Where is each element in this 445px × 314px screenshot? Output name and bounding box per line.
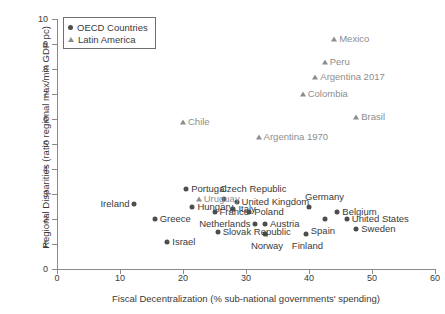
legend-circle-marker-icon (68, 25, 73, 30)
data-point-circle (344, 217, 349, 222)
y-axis-tick (52, 144, 57, 145)
x-axis-tick-label: 60 (420, 274, 445, 283)
data-point-label: Norway (251, 241, 283, 251)
legend-item-label: OECD Countries (77, 22, 148, 33)
data-point-circle (247, 209, 252, 214)
data-point-circle (190, 204, 195, 209)
data-point-circle (322, 217, 327, 222)
data-point-label: Chile (188, 117, 210, 127)
data-point-label: Peru (330, 57, 350, 67)
y-axis-tick (52, 244, 57, 245)
y-axis-line (57, 19, 58, 270)
data-point-triangle (180, 119, 186, 124)
x-axis-tick-label: 10 (105, 274, 135, 283)
data-point-label: Colombia (308, 89, 348, 99)
chart-legend: OECD Countries Latin America (63, 17, 156, 49)
data-point-triangle (312, 74, 318, 79)
data-point-circle (132, 202, 137, 207)
data-point-label: Argentina 1970 (264, 132, 328, 142)
x-axis-tick-label: 20 (168, 274, 198, 283)
x-axis-tick-label: 50 (357, 274, 387, 283)
data-point-circle (184, 187, 189, 192)
data-point-triangle (353, 114, 359, 119)
y-axis-tick (52, 169, 57, 170)
x-axis-tick-label: 0 (42, 274, 72, 283)
y-axis-tick (52, 94, 57, 95)
data-point-triangle (300, 92, 306, 97)
x-axis-tick-label: 30 (231, 274, 261, 283)
data-point-circle (303, 232, 308, 237)
legend-item-label: Latin America (78, 34, 136, 45)
y-axis-tick-label: 0 (28, 265, 48, 274)
data-point-circle (152, 217, 157, 222)
data-point-label: Ireland (100, 199, 129, 209)
data-point-label: Argentina 2017 (320, 72, 384, 82)
y-axis-title: Regional Disparities (ratio regional max… (40, 13, 51, 263)
data-point-label: Greece (160, 214, 191, 224)
y-axis-tick (52, 19, 57, 20)
data-point-label: Poland (254, 207, 284, 217)
data-point-circle (212, 209, 217, 214)
data-point-triangle (331, 37, 337, 42)
data-point-label: Sweden (361, 224, 395, 234)
data-point-label: Uruguay (204, 194, 240, 204)
legend-item-latin-america: Latin America (68, 33, 148, 45)
data-point-circle (335, 209, 340, 214)
data-point-triangle (322, 59, 328, 64)
y-axis-tick (52, 69, 57, 70)
data-point-label: Spain (311, 226, 335, 236)
data-point-circle (165, 239, 170, 244)
data-point-label: Slovak Republic (223, 227, 291, 237)
data-point-label: Israel (172, 237, 195, 247)
data-point-circle (354, 227, 359, 232)
data-point-label: Mexico (339, 34, 369, 44)
data-point-triangle (196, 197, 202, 202)
data-point-circle (231, 207, 236, 212)
legend-triangle-marker-icon (68, 37, 74, 42)
x-axis-tick-label: 40 (294, 274, 324, 283)
data-point-triangle (256, 134, 262, 139)
y-axis-tick (52, 219, 57, 220)
data-point-label: Finland (292, 241, 323, 251)
legend-item-oecd: OECD Countries (68, 21, 148, 33)
data-point-circle (215, 229, 220, 234)
data-point-label: Brasil (361, 112, 385, 122)
y-axis-tick (52, 194, 57, 195)
y-axis-tick (52, 119, 57, 120)
data-point-label: Germany (305, 192, 344, 202)
data-point-circle (307, 204, 312, 209)
y-axis-tick (52, 44, 57, 45)
x-axis-title: Fiscal Decentralization (% sub-national … (57, 293, 435, 304)
